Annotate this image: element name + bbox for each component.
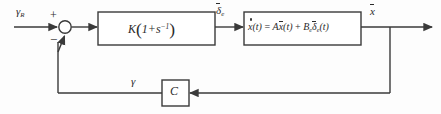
- summing-junction-minus-sign: −: [50, 33, 57, 46]
- summing-junction-circle: [59, 21, 71, 33]
- plant-lhs-state: x: [248, 22, 252, 32]
- plant-lhs-arg: (t): [252, 21, 261, 32]
- plant-term1-arg: (t): [283, 21, 292, 32]
- elevator-deflection-subscript: e: [221, 10, 224, 17]
- state-output-label: x: [370, 6, 375, 17]
- controller-paren-close: ): [169, 19, 175, 39]
- controller-block-label: K(1+s−1): [128, 21, 175, 38]
- reference-input-label: γR: [16, 6, 25, 19]
- elevator-deflection-symbol: δ: [216, 5, 221, 16]
- plant-state-vector: x: [279, 22, 283, 32]
- feedback-signal-label: γ: [131, 76, 135, 87]
- controller-gain: K: [128, 22, 136, 36]
- plant-input-signal: δ: [312, 22, 317, 32]
- plant-plus: +: [295, 21, 301, 32]
- plant-equals: =: [264, 21, 270, 32]
- control-block-diagram: γR + − K(1+s−1) δe x(t) = Ax(t) + Beδe(t…: [0, 0, 441, 114]
- state-output-symbol: x: [370, 6, 375, 17]
- summing-junction-plus-sign: +: [50, 9, 57, 21]
- plant-term2-arg: (t): [319, 21, 328, 32]
- elevator-deflection-label: δe: [216, 5, 224, 18]
- sensor-block-label: C: [170, 85, 178, 97]
- wire-feedback-into-sum: [58, 36, 65, 52]
- controller-expression-body: 1+s: [142, 22, 161, 36]
- plant-block-label: x(t) = Ax(t) + Beδe(t): [248, 22, 329, 33]
- reference-input-subscript: R: [20, 11, 24, 18]
